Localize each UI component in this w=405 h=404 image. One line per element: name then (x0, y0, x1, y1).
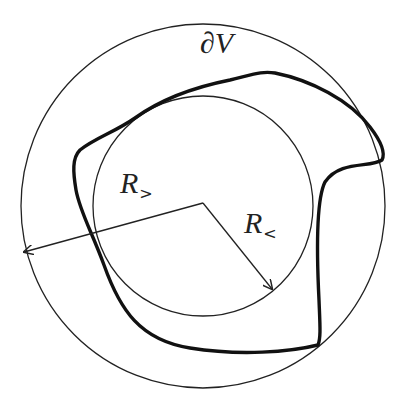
outer-radius-label: R> (120, 168, 153, 198)
boundary-label: ∂V (200, 28, 233, 58)
inner-radius-label: R< (244, 208, 277, 238)
outer-radius-arrow (24, 203, 203, 252)
region-boundary-curve (74, 72, 383, 352)
inner-radius-subscript: < (263, 224, 276, 243)
inner-radius-symbol: R (244, 206, 262, 239)
outer-radius-subscript: > (139, 184, 152, 203)
boundary-label-text: ∂V (200, 26, 233, 59)
inner-circle (93, 96, 313, 316)
outer-radius-symbol: R (120, 166, 138, 199)
outer-circle (21, 24, 385, 388)
diagram-canvas (0, 0, 405, 404)
